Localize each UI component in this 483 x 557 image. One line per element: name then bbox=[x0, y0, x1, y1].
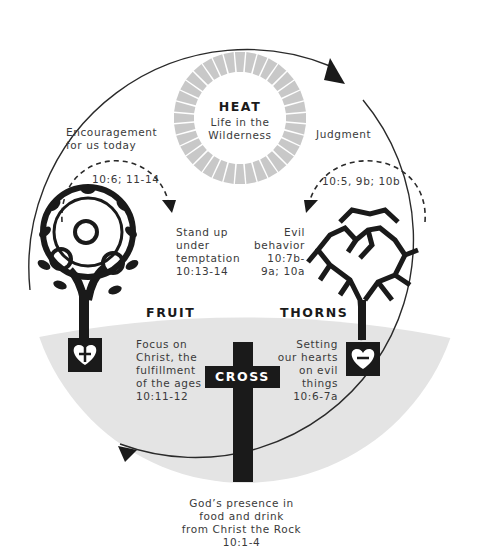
thorns-line: our hearts bbox=[250, 351, 338, 364]
judgment-ref: 10:5, 9b; 10b bbox=[322, 175, 400, 188]
fruit-tree-icon bbox=[36, 186, 140, 340]
bottom-line: from Christ the Rock bbox=[140, 523, 343, 536]
stand-up-line: 10:13-14 bbox=[176, 265, 228, 278]
thorns-line: 10:6-7a bbox=[250, 390, 338, 403]
bottom-line: 10:1-4 bbox=[140, 536, 343, 549]
cycle-diagram bbox=[0, 0, 483, 557]
fruit-title: FRUIT bbox=[146, 306, 196, 319]
fruit-line: 10:11-12 bbox=[136, 390, 188, 403]
dashed-arrowhead-right-icon bbox=[304, 200, 318, 213]
thorn-tree-icon bbox=[308, 210, 418, 340]
evil-behavior-line: 9a; 10a bbox=[230, 265, 305, 278]
encouragement-line1: Encouragement bbox=[66, 126, 157, 139]
heat-title: HEAT bbox=[205, 100, 275, 113]
evil-behavior-line: behavior bbox=[230, 239, 305, 252]
evil-behavior-line: 10:7b- bbox=[230, 252, 305, 265]
heat-subtitle-line1: Life in the bbox=[195, 116, 285, 129]
stand-up-line: Stand up bbox=[176, 226, 228, 239]
arrow-top-right-icon bbox=[324, 58, 345, 84]
thorns-title: THORNS bbox=[280, 306, 348, 319]
judgment-label: Judgment bbox=[316, 128, 371, 141]
bottom-line: food and drink bbox=[140, 510, 343, 523]
thorns-line: Setting bbox=[250, 338, 338, 351]
fruit-line: Christ, the bbox=[136, 351, 197, 364]
dashed-arrowhead-left-icon bbox=[162, 200, 176, 213]
fruit-line: Focus on bbox=[136, 338, 187, 351]
encouragement-line2: for us today bbox=[66, 139, 136, 152]
encouragement-ref: 10:6; 11-14 bbox=[92, 173, 160, 186]
heat-subtitle-line2: Wilderness bbox=[195, 129, 285, 142]
fruit-line: of the ages bbox=[136, 377, 202, 390]
evil-behavior-line: Evil bbox=[230, 226, 305, 239]
fruit-line: fulfillment bbox=[136, 364, 196, 377]
bottom-line: God’s presence in bbox=[140, 497, 343, 510]
cross-label: CROSS bbox=[205, 370, 280, 383]
stand-up-line: under bbox=[176, 239, 210, 252]
thorns-heart-box bbox=[346, 342, 380, 376]
fruit-heart-box bbox=[68, 338, 102, 372]
